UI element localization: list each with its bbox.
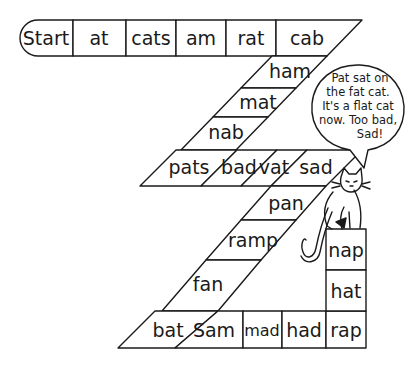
word-rat: rat [238,27,265,49]
word-bat: bat [152,319,183,341]
word-cab: cab [290,27,324,49]
word-rap: rap [330,319,362,341]
word-pats: pats [168,156,209,178]
word-nap: nap [328,239,364,261]
word-pan: pan [268,192,304,214]
word-ham: ham [269,60,311,82]
word-bad: bad [221,156,257,178]
cat-shadow [336,218,346,228]
word-start: Start [23,27,69,49]
word-cats: cats [131,27,170,49]
speech-line-3: It's a flat cat [322,99,394,113]
word-mat: mat [239,91,277,113]
speech-line-1: Pat sat on [331,71,388,85]
word-hat: hat [330,280,361,302]
cat-back [354,190,361,228]
word-vat: vat [259,156,289,178]
word-at: at [89,27,108,49]
right-column: nap hat [326,229,366,311]
cat-face [346,181,357,186]
speech-line-5: Sad! [357,127,383,141]
upper-diagonal: ham mat nab [181,56,327,150]
top-row: Start at cats am rat cab [20,20,362,56]
word-ramp: ramp [228,229,278,251]
cat-head [341,168,363,192]
word-path-board: Start at cats am rat cab ham mat nab pat… [0,0,418,374]
cat-body [325,192,333,229]
word-nab: nab [208,121,244,143]
speech-line-4: now. Too bad, [319,113,397,127]
middle-row: pats bad vat sad [140,150,362,186]
bottom-row: bat Sam mad had rap [118,311,366,348]
word-sam: Sam [193,319,235,341]
word-fan: fan [193,273,223,295]
word-am: am [186,27,216,49]
word-had: had [286,319,322,341]
word-sad: sad [299,156,333,178]
word-mad: mad [244,321,280,340]
speech-line-2: the fat cat. [326,85,389,99]
